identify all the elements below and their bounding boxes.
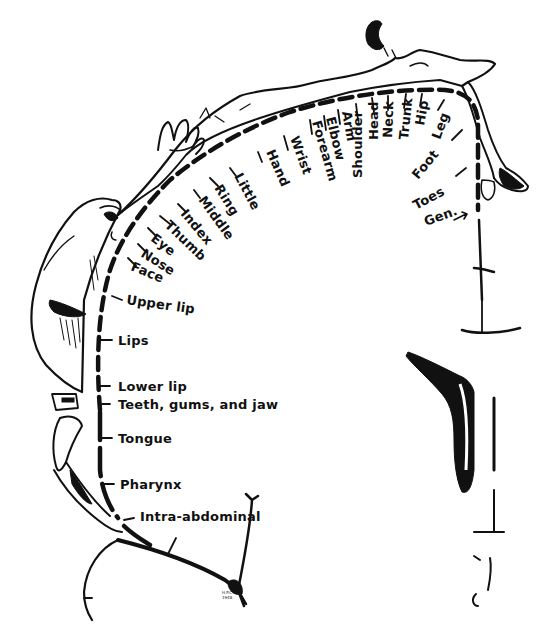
jaw-figure (52, 394, 78, 410)
label-lips: Lips (118, 333, 149, 348)
label-tongue: Tongue (118, 431, 172, 446)
label-foot: Foot (409, 147, 442, 182)
label-shoulder: Shoulder (350, 110, 365, 178)
label-teeth-gums-jaw: Teeth, gums, and jaw (118, 397, 278, 412)
label-hip: Hip (412, 99, 431, 126)
artist-signature: H.P.C. 1948 (222, 590, 233, 600)
label-intra-abdominal: Intra-abdominal (140, 509, 261, 524)
labels-face: Eye Nose Face Upper lip Lips Lower lip T… (118, 231, 278, 524)
homunculus-diagram: Little Hand Wrist Forearm Elbow Arm Shou… (0, 0, 544, 631)
tongue-figure (53, 416, 122, 532)
face-figure (31, 199, 122, 393)
label-upper-lip: Upper lip (126, 292, 196, 316)
label-hand: Hand (263, 147, 293, 189)
label-head: Head (366, 101, 381, 140)
right-cross-sections (406, 220, 520, 606)
label-lower-lip: Lower lip (118, 379, 187, 394)
label-neck: Neck (380, 101, 396, 139)
signature-line2: 1948 (222, 595, 233, 600)
label-leg: Leg (429, 111, 452, 142)
label-pharynx: Pharynx (120, 477, 182, 492)
label-wrist: Wrist (287, 134, 315, 177)
